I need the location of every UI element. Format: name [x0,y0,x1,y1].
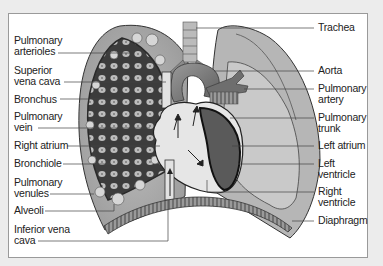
label-left-ventricle: Leftventricle [318,158,355,180]
label-right-ventricle: Rightventricle [318,186,355,208]
pulmonary-vein-bundle [210,92,238,104]
label-left-atrium: Left atrium [318,140,365,151]
label-alveoli: Alveoli [14,205,44,216]
label-aorta: Aorta [318,65,342,76]
label-pulmonary-venules: Pulmonaryvenules [14,177,62,199]
label-diaphragm: Diaphragm [318,215,368,226]
label-bronchus: Bronchus [14,94,57,105]
label-inferior-vena-cava: Inferior venacava [14,224,70,246]
label-pulmonary-artery: Pulmonaryartery [318,83,366,105]
label-pulmonary-arterioles: Pulmonaryarterioles [14,35,62,57]
label-superior-vena-cava: Superiorvena cava [14,65,60,87]
label-pulmonary-trunk: Pulmonarytrunk [318,112,366,134]
label-pulmonary-vein: Pulmonaryvein [14,111,62,133]
label-bronchiole: Bronchiole [14,158,62,169]
label-trachea: Trachea [318,22,355,33]
inferior-vena-cava [165,160,174,200]
superior-vena-cava [162,72,171,108]
label-right-atrium: Right atrium [14,140,68,151]
